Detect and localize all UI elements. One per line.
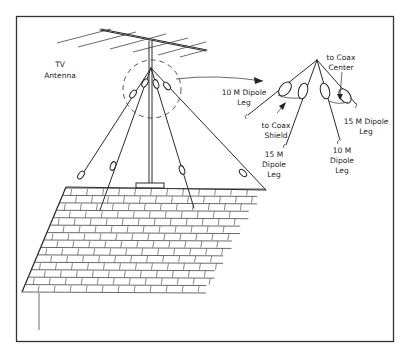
label-10m-leg-right: 10 M — [333, 146, 351, 155]
antenna-diagram: TV Antenna 10 M Dipole Leg to Coax Shiel… — [0, 0, 412, 357]
mast — [136, 41, 164, 188]
label-10m-leg-right: Dipole — [330, 156, 354, 165]
label-coax-shield: Shield — [264, 131, 287, 140]
detail-inset — [245, 60, 357, 148]
label-10m-leg-left: 10 M Dipole — [222, 88, 267, 97]
label-15m-leg-left: Leg — [267, 170, 281, 179]
tv-antenna-icon — [57, 29, 207, 57]
label-15m-leg-right: Leg — [359, 127, 373, 136]
callout-arrow — [176, 77, 263, 81]
label-coax-center: Center — [328, 63, 354, 72]
label-15m-leg-left: 15 M — [265, 150, 283, 159]
label-tv-antenna: TV — [54, 60, 66, 69]
label-15m-leg-left: Dipole — [262, 160, 286, 169]
label-15m-leg-right: 15 M Dipole — [344, 117, 389, 126]
label-coax-shield: to Coax — [262, 121, 291, 130]
label-10m-leg-left: Leg — [237, 98, 251, 107]
shingled-roof — [22, 187, 266, 293]
label-coax-center: to Coax — [327, 53, 356, 62]
label-10m-leg-right: Leg — [335, 166, 349, 175]
label-tv-antenna: Antenna — [44, 71, 76, 80]
